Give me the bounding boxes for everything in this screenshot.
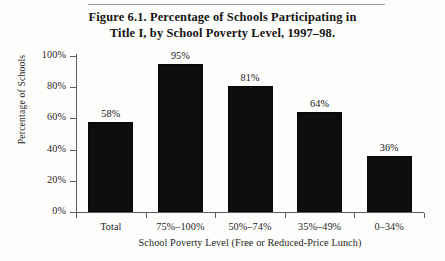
x-tick	[76, 213, 77, 218]
bar-value-label: 81%	[241, 72, 260, 83]
x-tick	[146, 213, 147, 218]
x-tick	[354, 213, 355, 218]
y-axis-title: Percentage of Schools	[16, 40, 27, 160]
bar: 36%	[367, 156, 412, 212]
header-rule	[88, 4, 385, 5]
caption-line-2: Title I, by School Poverty Level, 1997–9…	[50, 26, 395, 42]
bar: 95%	[158, 64, 203, 212]
plot-area: 58%95%81%64%36%	[76, 56, 424, 212]
x-tick	[424, 213, 425, 218]
x-category-label: 35%–49%	[285, 221, 355, 232]
figure-container: Figure 6.1. Percentage of Schools Partic…	[0, 0, 445, 261]
bar-value-label: 58%	[101, 108, 120, 119]
y-tick-label: 100%	[42, 49, 66, 60]
x-category-label: 75%–100%	[146, 221, 216, 232]
y-tick-label: 0%	[52, 205, 66, 216]
x-tick	[215, 213, 216, 218]
caption-line-1: Figure 6.1. Percentage of Schools Partic…	[50, 10, 395, 26]
x-axis-line	[76, 212, 424, 213]
x-axis-title: School Poverty Level (Free or Reduced-Pr…	[76, 237, 424, 248]
y-tick-label: 20%	[47, 174, 66, 185]
bar: 58%	[88, 122, 133, 212]
x-tick	[285, 213, 286, 218]
x-category-label: 50%–74%	[215, 221, 285, 232]
x-category-label: Total	[76, 221, 146, 232]
y-tick-label: 60%	[47, 111, 66, 122]
bar: 64%	[297, 112, 342, 212]
y-tick-label: 80%	[47, 80, 66, 91]
x-category-label: 0–34%	[354, 221, 424, 232]
bar-value-label: 36%	[380, 142, 399, 153]
bar: 81%	[228, 86, 273, 212]
figure-caption: Figure 6.1. Percentage of Schools Partic…	[50, 10, 395, 41]
bar-value-label: 64%	[310, 98, 329, 109]
y-tick-label: 40%	[47, 143, 66, 154]
bar-value-label: 95%	[171, 50, 190, 61]
